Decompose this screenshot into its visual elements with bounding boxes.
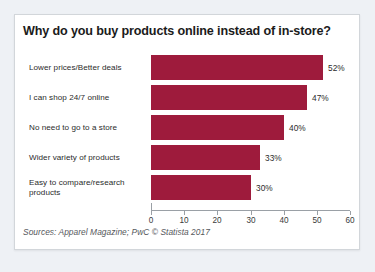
source-note: Sources: Apparel Magazine; PwC © Statist… (23, 227, 210, 237)
category-label: No need to go to a store (29, 123, 149, 133)
chart-row: Easy to compare/research products30% (15, 175, 359, 205)
chart-row: I can shop 24/7 online47% (15, 85, 359, 115)
category-label: Lower prices/Better deals (29, 63, 149, 73)
category-label: I can shop 24/7 online (29, 93, 149, 103)
x-axis-tick (217, 211, 218, 215)
chart-bar (151, 145, 260, 170)
page-title: Why do you buy products online instead o… (23, 24, 353, 39)
x-axis-tick (284, 211, 285, 215)
x-axis-tick (350, 211, 351, 215)
x-axis-tick-label: 0 (149, 216, 154, 225)
bar-value-label: 30% (256, 183, 273, 193)
category-label: Easy to compare/research products (29, 178, 149, 197)
bar-value-label: 33% (265, 153, 282, 163)
bar-value-label: 40% (289, 123, 306, 133)
chart-card: Why do you buy products online instead o… (14, 14, 360, 250)
chart-bar (151, 115, 284, 140)
bar-value-label: 47% (312, 93, 329, 103)
bar-value-label: 52% (328, 63, 345, 73)
chart-plot-area: Lower prices/Better deals52%I can shop 2… (15, 53, 359, 211)
chart-bar (151, 175, 251, 200)
x-axis-tick (251, 211, 252, 215)
x-axis-tick-label: 40 (279, 216, 288, 225)
chart-row: Lower prices/Better deals52% (15, 55, 359, 85)
chart-row: Wider variety of products33% (15, 145, 359, 175)
screenshot-canvas: Why do you buy products online instead o… (0, 0, 375, 272)
x-axis-tick-label: 60 (345, 216, 354, 225)
x-axis-tick-label: 30 (246, 216, 255, 225)
category-label: Wider variety of products (29, 153, 149, 163)
chart-bar (151, 55, 323, 80)
x-axis-origin-cap (151, 203, 152, 211)
x-axis-tick (317, 211, 318, 215)
x-axis-tick-label: 10 (179, 216, 188, 225)
x-axis-tick (184, 211, 185, 215)
x-axis-tick (151, 211, 152, 215)
x-axis-tick-label: 50 (312, 216, 321, 225)
x-axis-tick-label: 20 (212, 216, 221, 225)
chart-bar (151, 85, 307, 110)
chart-row: No need to go to a store40% (15, 115, 359, 145)
